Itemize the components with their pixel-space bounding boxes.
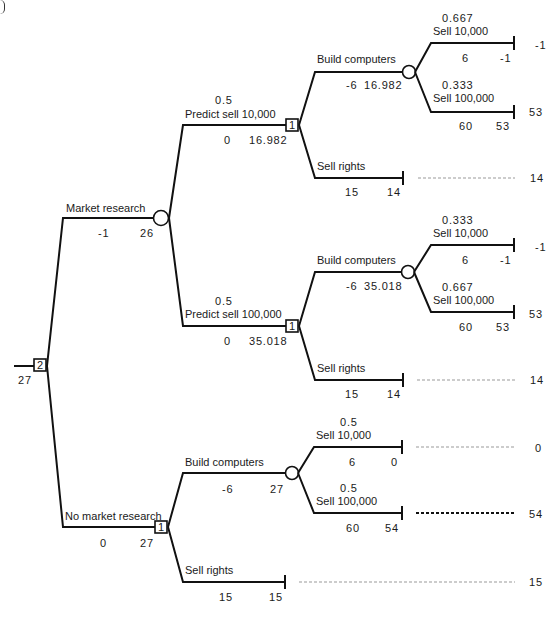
predict-high-label: Predict sell 100,000: [185, 308, 282, 320]
build-1-label: Build computers: [317, 53, 396, 65]
sell-rights-2-label: Sell rights: [317, 362, 366, 374]
outcome-3-high-prob: 0.5: [340, 482, 358, 494]
outcome-1-high-payoff: 60: [459, 120, 473, 132]
outcome-1-high-value: 53: [496, 120, 510, 132]
predict-high-value: 35.018: [249, 335, 287, 347]
terminal-3-high: 54: [529, 508, 543, 520]
root-node-id: 2: [37, 359, 43, 371]
predict-low-label: Predict sell 10,000: [185, 108, 276, 120]
terminal-sell-rights-2: 14: [530, 374, 544, 386]
no-market-research-label: No market research: [65, 510, 162, 522]
outcome-1-high-prob: 0.333: [442, 79, 474, 91]
build-2-label: Build computers: [317, 254, 396, 266]
sell-rights-3-label: Sell rights: [185, 564, 234, 576]
no-market-research-value: 27: [140, 537, 154, 549]
outcome-3-sell-10000[interactable]: [298, 440, 515, 473]
terminal-1-high: 53: [529, 106, 543, 118]
outcome-2-low-label: Sell 10,000: [433, 227, 488, 239]
build-2-cost: -6: [346, 280, 357, 292]
terminal-1-low: -1: [535, 39, 546, 51]
outcome-3-low-label: Sell 10,000: [316, 429, 371, 441]
build-1-value: 16.982: [364, 79, 402, 91]
outcome-2-high-value: 53: [496, 321, 510, 333]
outcome-2-low-payoff: 6: [462, 254, 469, 266]
no-market-research-cost: 0: [100, 537, 107, 549]
outcome-1-low-value: -1: [500, 52, 511, 64]
branch-build-computers-3[interactable]: [168, 473, 286, 527]
build-1-chance-node[interactable]: [403, 66, 416, 79]
outcome-3-low-value: 0: [391, 456, 398, 468]
build-3-label: Build computers: [185, 456, 264, 468]
sell-rights-1-payoff: 15: [345, 186, 359, 198]
predict-low-value: 16.982: [249, 134, 287, 146]
market-research-value: 26: [140, 227, 154, 239]
branch-sell-rights-2[interactable]: [299, 326, 515, 387]
outcome-1-high-label: Sell 100,000: [433, 92, 494, 104]
branch-market-research[interactable]: [47, 218, 153, 366]
build-3-cost: -6: [222, 483, 233, 495]
build-2-value: 35.018: [364, 280, 402, 292]
terminal-sell-rights-3: 15: [529, 576, 543, 588]
terminal-3-low: 0: [535, 442, 542, 454]
sell-rights-3-value: 15: [269, 591, 283, 603]
sell-rights-2-payoff: 15: [345, 388, 359, 400]
predict-low-decision-node[interactable]: 1: [286, 119, 298, 131]
svg-text:1: 1: [289, 119, 295, 131]
predict-high-decision-node[interactable]: 1: [286, 320, 298, 332]
predict-high-prob: 0.5: [215, 295, 233, 307]
terminal-2-low: -1: [535, 241, 546, 253]
outcome-3-high-payoff: 60: [346, 522, 360, 534]
build-1-cost: -6: [346, 79, 357, 91]
outcome-2-high-prob: 0.667: [442, 281, 474, 293]
root-decision-node[interactable]: 2: [14, 359, 46, 371]
branch-no-market-research[interactable]: [47, 366, 155, 527]
market-research-chance-node[interactable]: [154, 211, 169, 226]
build-3-chance-node[interactable]: [286, 467, 299, 480]
outcome-3-low-prob: 0.5: [340, 416, 358, 428]
market-research-cost: -1: [98, 227, 109, 239]
sell-rights-2-value: 14: [387, 388, 401, 400]
build-2-chance-node[interactable]: [402, 266, 415, 279]
build-3-value: 27: [270, 483, 284, 495]
terminal-2-high: 53: [529, 308, 543, 320]
outcome-3-high-value: 54: [385, 522, 399, 534]
outcome-1-low-prob: 0.667: [442, 12, 474, 24]
predict-low-cost: 0: [224, 134, 231, 146]
decision-tree: 2 27 Market research -1 26 0.5 Predict s…: [0, 0, 559, 617]
predict-low-prob: 0.5: [215, 94, 233, 106]
sell-rights-1-value: 14: [387, 186, 401, 198]
predict-high-cost: 0: [224, 335, 231, 347]
terminal-sell-rights-1: 14: [530, 172, 544, 184]
outcome-2-low-value: -1: [500, 254, 511, 266]
outcome-3-high-label: Sell 100,000: [316, 495, 377, 507]
outcome-2-low-prob: 0.333: [442, 214, 474, 226]
market-research-label: Market research: [66, 202, 145, 214]
sell-rights-3-payoff: 15: [219, 591, 233, 603]
outcome-3-low-payoff: 6: [349, 456, 356, 468]
root-value: 27: [18, 374, 32, 386]
outcome-2-high-label: Sell 100,000: [433, 294, 494, 306]
outcome-1-low-label: Sell 10,000: [433, 25, 488, 37]
branch-sell-rights-3[interactable]: [168, 527, 515, 589]
outcome-2-high-payoff: 60: [459, 321, 473, 333]
no-market-research-decision-node[interactable]: 1: [155, 521, 167, 533]
svg-text:1: 1: [289, 320, 295, 332]
outcome-1-low-payoff: 6: [462, 52, 469, 64]
sell-rights-1-label: Sell rights: [317, 160, 366, 172]
branch-sell-rights-1[interactable]: [299, 125, 515, 185]
svg-text:1: 1: [158, 521, 164, 533]
